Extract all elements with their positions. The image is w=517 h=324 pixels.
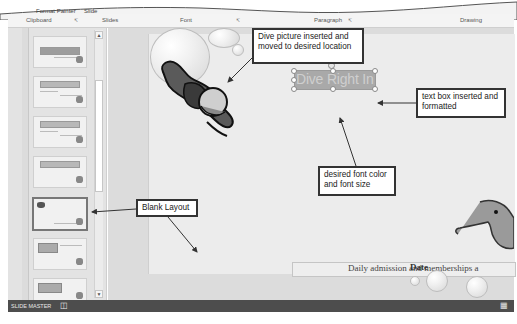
bubble-decoration — [466, 276, 488, 298]
view-mode-label: SLIDE MASTER — [11, 303, 51, 309]
thumbnail-layout-6[interactable] — [33, 238, 87, 270]
bubble-decoration — [410, 276, 420, 286]
callout-font: desired font color and font size — [318, 166, 396, 196]
callout-blank-layout: Blank Layout — [136, 199, 198, 217]
resize-handle-tl[interactable] — [291, 68, 297, 74]
notes-icon[interactable]: ◫ — [60, 301, 68, 310]
thumbnail-layout-7[interactable] — [33, 278, 87, 302]
thumbnail-blank-layout[interactable] — [32, 197, 88, 231]
normal-view-icon[interactable]: ▦ — [500, 301, 508, 310]
resize-handle-t[interactable] — [330, 68, 336, 74]
date-placeholder[interactable]: Date — [410, 262, 428, 272]
slide-button[interactable]: Slide — [84, 8, 97, 14]
callout-text-box: text box inserted and formatted — [416, 88, 506, 118]
resize-handle-l[interactable] — [291, 77, 297, 83]
diver-picture[interactable] — [155, 50, 245, 140]
thumbnail-scroll-thumb[interactable] — [95, 80, 103, 192]
status-bar: SLIDE MASTER ◫ ▦ — [8, 300, 514, 312]
resize-handle-b[interactable] — [330, 86, 336, 92]
thumbnail-layout-2[interactable] — [33, 76, 87, 108]
group-paragraph: Paragraph — [314, 17, 342, 23]
paragraph-launcher-icon[interactable]: ↸ — [348, 17, 352, 23]
resize-handle-bl[interactable] — [291, 86, 297, 92]
group-drawing: Drawing — [460, 17, 482, 23]
ribbon-group-labels: Format Painter Slide Clipboard ↸ Slides … — [8, 14, 514, 28]
font-launcher-icon[interactable]: ↸ — [236, 17, 240, 23]
clipboard-launcher-icon[interactable]: ↸ — [74, 17, 78, 23]
resize-handle-br[interactable] — [372, 86, 378, 92]
mini-diver-icon — [37, 202, 45, 208]
seahorse-picture — [450, 198, 514, 254]
resize-handle-tr[interactable] — [372, 68, 378, 74]
bubble-decoration — [426, 270, 448, 292]
group-font: Font — [180, 17, 192, 23]
scroll-down-icon[interactable]: ▼ — [95, 290, 103, 298]
thumbnail-layout-1[interactable] — [33, 36, 87, 68]
group-slides: Slides — [102, 17, 118, 23]
vertical-ruler — [22, 28, 29, 300]
thumbnail-layout-4[interactable] — [33, 156, 87, 188]
scroll-up-icon[interactable]: ▲ — [95, 31, 103, 39]
group-clipboard: Clipboard — [26, 17, 52, 23]
format-painter-button[interactable]: Format Painter — [36, 8, 76, 14]
thumbnail-layout-3[interactable] — [33, 116, 87, 148]
callout-dive-picture: Dive picture inserted and moved to desir… — [252, 28, 364, 64]
